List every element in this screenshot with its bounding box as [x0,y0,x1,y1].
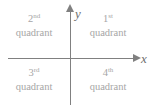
quadrant-ordinal-second: 2nd [2,12,66,26]
quadrant-ordinal-third: 3rd [2,66,66,80]
quadrant-ordinal-fourth: 4th [76,66,140,80]
quadrant-suffix-third: rd [34,66,40,74]
quadrant-ordinal-first: 1st [76,12,140,26]
x-axis-line [8,58,137,59]
quadrant-label-second: 2nd quadrant [2,12,66,40]
quadrant-word-second: quadrant [2,26,66,40]
quadrant-suffix-first: st [108,12,113,20]
quadrant-label-third: 3rd quadrant [2,66,66,94]
y-axis-line [70,11,71,105]
quadrant-suffix-fourth: th [108,66,113,74]
coordinate-plane-figure: y x 2nd quadrant 1st quadrant 3rd quadra… [0,0,152,111]
y-axis-arrowhead-icon [66,4,74,12]
quadrant-word-third: quadrant [2,80,66,94]
quadrant-suffix-second: nd [33,12,40,20]
quadrant-label-first: 1st quadrant [76,12,140,40]
x-axis-arrowhead-icon [133,54,141,62]
x-axis-label: x [141,52,147,65]
quadrant-word-fourth: quadrant [76,80,140,94]
quadrant-label-fourth: 4th quadrant [76,66,140,94]
quadrant-word-first: quadrant [76,26,140,40]
